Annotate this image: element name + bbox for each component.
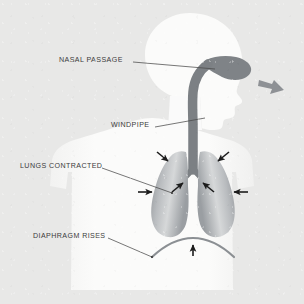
- leader-dot-lungs: [171, 192, 173, 194]
- leader-dot-diaphragm: [151, 256, 153, 258]
- exhale-arrow: [258, 80, 284, 94]
- label-lungs-contracted: LUNGS CONTRACTED: [20, 163, 102, 170]
- anatomy-illustration: [0, 0, 304, 304]
- label-diaphragm-rises: DIAPHRAGM RISES: [33, 233, 106, 240]
- respiratory-diagram: NASAL PASSAGE WINDPIPE LUNGS CONTRACTED …: [0, 0, 304, 304]
- label-nasal-passage: NASAL PASSAGE: [59, 57, 123, 64]
- label-windpipe: WINDPIPE: [111, 122, 149, 129]
